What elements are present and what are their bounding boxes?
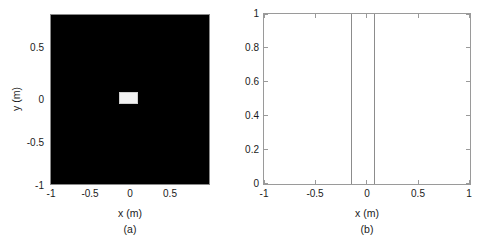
panel-b-ytick-mark-right-1 xyxy=(466,149,470,150)
object-rectangle xyxy=(119,92,138,104)
panel-b: 1 0.8 0.6 0.4 0.2 0 -1 -0.5 0 0.5 1 x (m… xyxy=(243,0,486,238)
panel-b-ytick-label-1: 0.2 xyxy=(233,144,259,155)
panel-a: 0.5 0 -0.5 -1 -1 -0.5 0 0.5 x (m) y (m) … xyxy=(0,0,243,238)
panel-b-ytick-mark-right-3 xyxy=(466,81,470,82)
panel-b-ytick-label-3: 0.6 xyxy=(233,76,259,87)
panel-b-ytick-label-0: 0 xyxy=(233,178,259,189)
panel-a-xtick-label-2: 0 xyxy=(127,188,133,199)
panel-a-ytick-label-2: -0.5 xyxy=(18,137,44,148)
panel-b-caption: (b) xyxy=(361,223,374,235)
panel-b-axes xyxy=(263,13,471,185)
panel-b-xtick-mark-top-2 xyxy=(366,14,367,18)
panel-a-y-axis-title: y (m) xyxy=(10,87,22,111)
panel-a-xtick-label-0: -1 xyxy=(47,188,56,199)
panel-b-ytick-mark-right-5 xyxy=(466,14,470,15)
profile-line-right xyxy=(374,14,375,184)
panel-a-axes xyxy=(50,14,210,185)
panel-b-xtick-label-4: 1 xyxy=(466,188,472,199)
panel-a-x-axis-title: x (m) xyxy=(118,207,142,219)
panel-b-xtick-mark-2 xyxy=(366,180,367,184)
panel-b-ytick-mark-4 xyxy=(264,47,268,48)
panel-b-xtick-mark-3 xyxy=(418,180,419,184)
panel-b-xtick-mark-1 xyxy=(315,180,316,184)
panel-a-ytick-label-3: -1 xyxy=(18,180,44,191)
figure-container: 0.5 0 -0.5 -1 -1 -0.5 0 0.5 x (m) y (m) … xyxy=(0,0,486,238)
panel-b-xtick-mark-top-1 xyxy=(315,14,316,18)
panel-b-xtick-mark-top-3 xyxy=(418,14,419,18)
panel-a-caption: (a) xyxy=(124,223,137,235)
panel-b-ytick-label-5: 1 xyxy=(233,8,259,19)
panel-b-ytick-mark-1 xyxy=(264,149,268,150)
panel-b-xtick-label-1: -0.5 xyxy=(306,188,323,199)
panel-b-x-axis-title: x (m) xyxy=(355,207,379,219)
panel-b-ytick-mark-right-4 xyxy=(466,47,470,48)
panel-b-ytick-mark-3 xyxy=(264,81,268,82)
panel-a-xtick-label-1: -0.5 xyxy=(81,188,98,199)
panel-a-ytick-label-0: 0.5 xyxy=(18,42,44,53)
panel-b-xtick-label-0: -1 xyxy=(260,188,269,199)
panel-b-ytick-mark-right-0 xyxy=(466,183,470,184)
panel-b-ytick-label-4: 0.8 xyxy=(233,42,259,53)
panel-b-ytick-label-2: 0.4 xyxy=(233,110,259,121)
panel-b-xtick-label-3: 0.5 xyxy=(411,188,425,199)
panel-b-ytick-mark-2 xyxy=(264,115,268,116)
panel-a-xtick-label-3: 0.5 xyxy=(163,188,177,199)
panel-b-ytick-mark-0 xyxy=(264,183,268,184)
panel-b-xtick-label-2: 0 xyxy=(364,188,370,199)
profile-line-left xyxy=(351,14,352,184)
panel-b-ytick-mark-right-2 xyxy=(466,115,470,116)
panel-b-ytick-mark-5 xyxy=(264,14,268,15)
